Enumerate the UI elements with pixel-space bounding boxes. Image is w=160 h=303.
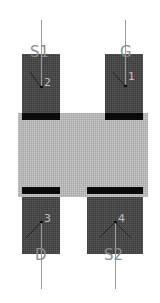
pin-dot-d: [40, 221, 43, 224]
pin-number-3: 3: [44, 212, 51, 225]
pad-g: [105, 54, 143, 118]
component-body: [18, 113, 148, 197]
pin-number-4: 4: [118, 212, 125, 225]
pin-number-2: 2: [44, 76, 51, 89]
label-s2: S2: [104, 246, 123, 264]
band-d: [22, 187, 60, 194]
label-g: G: [120, 43, 132, 61]
pin-dot-s2: [114, 221, 117, 224]
label-s1: S1: [30, 43, 49, 61]
pin-number-1: 1: [128, 70, 135, 83]
pin-dot-s1: [40, 86, 43, 89]
band-s1: [22, 113, 60, 120]
band-g: [105, 113, 143, 120]
footprint-diagram: 2 1 3 4 S1 G D S2: [0, 0, 160, 303]
band-s2: [87, 187, 143, 194]
pin-dot-g: [124, 85, 127, 88]
label-d: D: [35, 246, 47, 264]
